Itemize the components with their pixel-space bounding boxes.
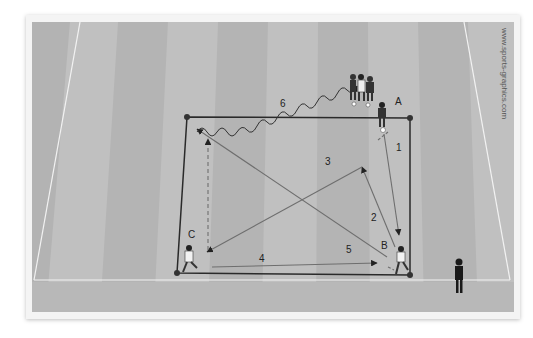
watermark: www.sports-graphics.com	[500, 27, 509, 119]
pitch: 1 2 3 4 5 6 A B C	[32, 22, 514, 312]
cone-icon	[407, 272, 413, 278]
pass-label-6: 6	[280, 98, 286, 109]
player-label-c: C	[188, 229, 195, 240]
player-label-b: B	[381, 240, 388, 251]
diagram-frame: 1 2 3 4 5 6 A B C	[26, 15, 520, 319]
ball-icon	[381, 128, 386, 133]
player-label-a: A	[395, 96, 402, 107]
pass-label-4: 4	[259, 253, 265, 264]
pass-label-2: 2	[371, 212, 377, 223]
cone-icon	[184, 114, 190, 120]
cone-icon	[174, 270, 180, 276]
cone-icon	[407, 115, 413, 121]
pitch-stripes	[32, 22, 514, 312]
pass-label-3: 3	[325, 156, 331, 167]
pass-label-1: 1	[396, 142, 402, 153]
pass-label-5: 5	[346, 244, 352, 255]
